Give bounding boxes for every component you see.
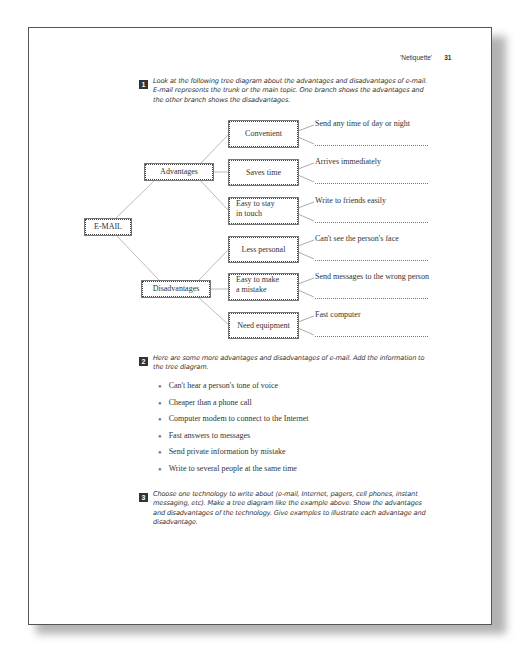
bullet-item: ●Cheaper than a phone call [158, 398, 309, 415]
exercise-2-instructions: Here are some more advantages and disadv… [153, 354, 424, 373]
answer-blank[interactable] [315, 336, 428, 337]
instruction-line: and disadvantages of the technology. Giv… [153, 509, 426, 518]
instruction-line: messaging, etc). Make a tree diagram lik… [153, 499, 426, 508]
bullet-text: Computer modem to connect to the Interne… [169, 414, 309, 423]
page-number: 31 [444, 54, 451, 61]
tree-branch-advantages: Advantages [145, 164, 213, 180]
answer-blank[interactable] [315, 145, 428, 146]
tree-node-saves-time: Saves time [229, 160, 298, 185]
exercise-3-instructions: Choose one technology to write about (e-… [153, 490, 426, 528]
bullet-icon: ● [158, 383, 162, 389]
tree-node-need-equipment: Need equipment [229, 313, 298, 338]
bullet-icon: ● [158, 400, 162, 406]
exercise-1-instructions: Look at the following tree diagram about… [153, 77, 427, 105]
tree-root-email: E-MAIL [85, 219, 131, 235]
node-label-line: in touch [236, 209, 262, 219]
exercise-2-badge: 2 [139, 357, 148, 366]
example-text: Send messages to the wrong person [315, 272, 429, 281]
tree-node-easy-to-stay-in-touch: Easy to stay in touch [229, 198, 298, 224]
exercise-3-badge: 3 [139, 493, 148, 502]
bullet-text: Write to several people at the same time [169, 464, 297, 473]
bullet-icon: ● [158, 416, 162, 422]
example-text: Can't see the person's face [315, 234, 399, 243]
answer-blank[interactable] [315, 183, 428, 184]
tree-node-convenient: Convenient [229, 121, 298, 147]
bullet-item: ●Write to several people at the same tim… [158, 464, 309, 481]
instruction-line: disadvantage. [153, 518, 426, 527]
tree-node-less-personal: Less personal [229, 237, 298, 262]
example-text: Arrives immediately [315, 157, 381, 166]
exercise-1-badge: 1 [139, 80, 148, 89]
node-label-line: Easy to make [236, 275, 279, 285]
example-text: Fast computer [315, 310, 361, 319]
instruction-line: Choose one technology to write about (e-… [153, 490, 426, 499]
instruction-line: Look at the following tree diagram about… [153, 77, 427, 86]
instruction-line: the tree diagram. [153, 363, 424, 372]
node-label-line: a mistake [236, 285, 266, 295]
example-text: Send any time of day or night [315, 119, 410, 128]
answer-blank[interactable] [315, 298, 428, 299]
instruction-line: E-mail represents the trunk or the main … [153, 86, 427, 95]
running-header: 'Netiquette'31 [400, 54, 451, 61]
bullet-icon: ● [158, 449, 162, 455]
bullet-text: Can't hear a person's tone of voice [169, 381, 279, 390]
bullet-text: Fast answers to messages [169, 431, 251, 440]
tree-node-easy-to-make-a-mistake: Easy to make a mistake [229, 274, 298, 300]
example-text: Write to friends easily [315, 196, 386, 205]
instruction-line: Here are some more advantages and disadv… [153, 354, 424, 363]
answer-blank[interactable] [315, 260, 428, 261]
bullet-item: ●Computer modem to connect to the Intern… [158, 414, 309, 431]
bullet-item: ●Can't hear a person's tone of voice [158, 381, 309, 398]
bullet-item: ●Send private information by mistake [158, 447, 309, 464]
tree-branch-disadvantages: Disadvantages [142, 281, 210, 297]
exercise-2-bullet-list: ●Can't hear a person's tone of voice ●Ch… [158, 381, 309, 480]
bullet-item: ●Fast answers to messages [158, 431, 309, 448]
instruction-line: the other branch shows the disadvantages… [153, 96, 427, 105]
running-title: 'Netiquette' [400, 54, 432, 61]
bullet-text: Send private information by mistake [169, 447, 286, 456]
node-label-line: Easy to stay [236, 199, 275, 209]
answer-blank[interactable] [315, 222, 428, 223]
bullet-icon: ● [158, 433, 162, 439]
bullet-icon: ● [158, 466, 162, 472]
bullet-text: Cheaper than a phone call [169, 398, 252, 407]
